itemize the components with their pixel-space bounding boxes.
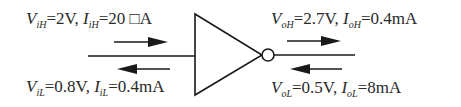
v-value: =0.5V, <box>292 78 337 97</box>
output-high-label: VoH=2.7V, IoH=0.4mA <box>271 10 417 30</box>
v-symbol: V <box>271 78 281 97</box>
v-subscript: oH <box>281 19 293 30</box>
v-symbol: V <box>26 9 36 28</box>
i-value: =0.4mA <box>108 77 164 96</box>
v-subscript: iL <box>36 87 44 98</box>
i-value: =20 □A <box>99 9 152 28</box>
v-value: =2V, <box>46 9 78 28</box>
inverter-diagram: ViH=2V, IiH=20 □A ViL=0.8V, IiL=0.4mA Vo… <box>0 0 461 107</box>
i-subscript: oL <box>347 88 358 99</box>
input-low-current-arrow-icon <box>117 64 170 74</box>
output-low-label: VoL=0.5V, IoL=8mA <box>271 79 401 99</box>
output-high-current-arrow-icon <box>287 36 341 46</box>
v-symbol: V <box>26 77 36 96</box>
v-subscript: oL <box>281 88 292 99</box>
input-high-current-arrow-icon <box>114 37 168 47</box>
input-low-label: ViL=0.8V, IiL=0.4mA <box>26 78 165 98</box>
input-high-label: ViH=2V, IiH=20 □A <box>26 10 152 30</box>
v-subscript: iH <box>36 19 46 30</box>
v-value: =0.8V, <box>45 77 90 96</box>
output-low-current-arrow-icon <box>290 64 342 74</box>
v-symbol: V <box>271 9 281 28</box>
v-value: =2.7V, <box>294 9 339 28</box>
i-subscript: oH <box>349 19 361 30</box>
i-subscript: iL <box>100 87 108 98</box>
i-subscript: iH <box>89 19 99 30</box>
i-value: =8mA <box>358 78 402 97</box>
inverter-triangle <box>195 14 262 95</box>
i-value: =0.4mA <box>361 9 417 28</box>
inversion-bubble <box>262 49 274 61</box>
